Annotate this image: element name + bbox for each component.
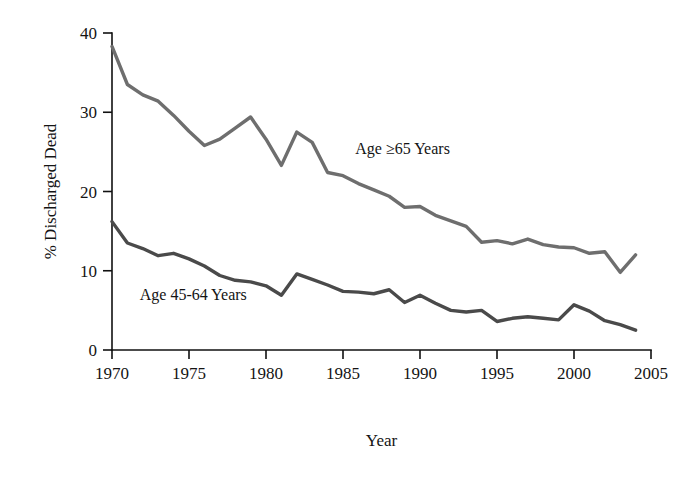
x-axis-tick-label: 1990 xyxy=(403,364,437,383)
x-axis-tick-label: 1995 xyxy=(480,364,514,383)
x-axis-tick-label: 2005 xyxy=(634,364,668,383)
x-axis-title: Year xyxy=(366,431,398,450)
y-axis-tick-label: 30 xyxy=(80,103,97,122)
y-axis-tick-label: 40 xyxy=(80,24,97,43)
series-annotation-age-65-plus: Age ≥65 Years xyxy=(355,140,450,158)
series-line-age-45-64 xyxy=(112,222,636,331)
line-chart-canvas: 0102030401970197519801985199019952000200… xyxy=(0,0,694,486)
y-axis-tick-label: 10 xyxy=(80,262,97,281)
series-line-age-65-plus xyxy=(112,46,636,272)
y-axis-title: % Discharged Dead xyxy=(41,123,60,259)
x-axis-tick-label: 2000 xyxy=(557,364,591,383)
x-axis-tick-label: 1980 xyxy=(249,364,283,383)
y-axis-tick-label: 20 xyxy=(80,183,97,202)
series-annotation-age-45-64: Age 45-64 Years xyxy=(140,286,247,304)
x-axis-tick-label: 1970 xyxy=(95,364,129,383)
x-axis-tick-label: 1985 xyxy=(326,364,360,383)
y-axis-tick-label: 0 xyxy=(89,341,98,360)
chart-figure: 0102030401970197519801985199019952000200… xyxy=(0,0,694,486)
x-axis-tick-label: 1975 xyxy=(172,364,206,383)
